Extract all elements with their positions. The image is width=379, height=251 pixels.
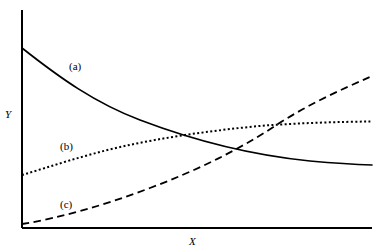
curve-label-a: (a) (69, 61, 81, 72)
curve-b (22, 122, 372, 176)
chart-figure: Y X (a) (b) (c) (0, 0, 379, 251)
curve-label-b: (b) (60, 141, 73, 152)
y-axis-label: Y (5, 109, 11, 120)
plot-area (0, 0, 379, 251)
curve-label-c: (c) (60, 199, 72, 210)
x-axis-label: X (189, 236, 196, 247)
curve-c (22, 77, 370, 224)
